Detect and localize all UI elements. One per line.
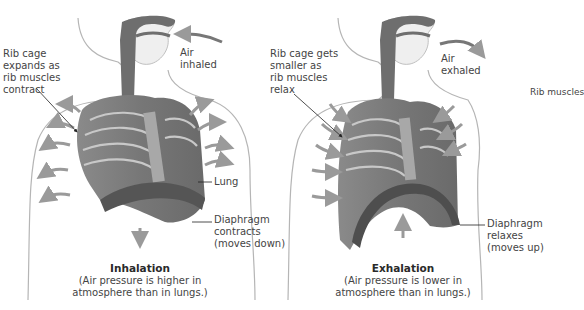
- label-line: expands as: [3, 60, 60, 72]
- label-line: Diaphragm: [214, 214, 285, 226]
- diaphragm-relaxes-label: Diaphragm relaxes (moves up): [487, 218, 544, 254]
- rib-cage-smaller-label: Rib cage gets smaller as rib muscles rel…: [270, 48, 338, 96]
- label-line: Rib cage: [3, 48, 60, 60]
- rib-muscles-label: Rib muscles: [530, 86, 584, 98]
- lung-label: Lung: [214, 176, 238, 188]
- label-line: relaxes: [487, 230, 544, 242]
- exhalation-subtitle: (Air pressure is lower in atmosphere tha…: [323, 275, 483, 299]
- exhalation-title: Exhalation: [343, 262, 463, 274]
- subtitle-line: (Air pressure is lower in: [323, 275, 483, 287]
- label-line: contracts: [214, 226, 285, 238]
- label-line: relax: [270, 84, 338, 96]
- label-line: Air: [441, 53, 481, 65]
- subtitle-line: (Air pressure is higher in: [60, 275, 220, 287]
- label-line: Rib cage gets: [270, 48, 338, 60]
- label-line: rib muscles: [270, 72, 338, 84]
- label-line: contract: [3, 84, 60, 96]
- inhalation-subtitle: (Air pressure is higher in atmosphere th…: [60, 275, 220, 299]
- rib-cage-expands-label: Rib cage expands as rib muscles contract: [3, 48, 60, 96]
- label-line: smaller as: [270, 60, 338, 72]
- subtitle-line: atmosphere than in lungs.): [60, 287, 220, 299]
- label-line: Air: [180, 47, 217, 59]
- diaphragm-contracts-label: Diaphragm contracts (moves down): [214, 214, 285, 250]
- label-line: inhaled: [180, 59, 217, 71]
- air-exhaled-label: Air exhaled: [441, 53, 481, 77]
- subtitle-line: atmosphere than in lungs.): [323, 287, 483, 299]
- label-line: rib muscles: [3, 72, 60, 84]
- label-line: (moves down): [214, 238, 285, 250]
- inhalation-figure: [28, 16, 255, 300]
- inhalation-title: Inhalation: [80, 262, 200, 274]
- label-line: Diaphragm: [487, 218, 544, 230]
- air-inhaled-label: Air inhaled: [180, 47, 217, 71]
- label-line: exhaled: [441, 65, 481, 77]
- label-line: (moves up): [487, 242, 544, 254]
